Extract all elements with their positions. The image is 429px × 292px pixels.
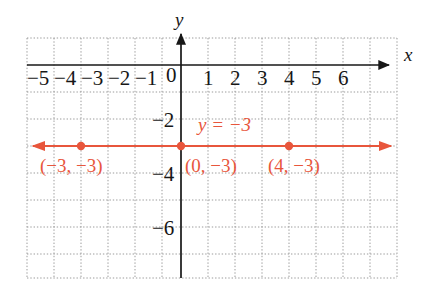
equation-label: y = −3 (196, 114, 251, 135)
y-tick-label--2: −2 (152, 108, 174, 132)
point-label--3--3: (−3, −3) (40, 155, 103, 177)
point-marker--3--3 (77, 142, 85, 150)
point-label-0--3: (0, −3) (185, 155, 237, 177)
x-tick-label--1: −1 (135, 66, 157, 90)
x-tick-label--3: −3 (81, 66, 103, 90)
x-tick-label-2: 2 (230, 66, 241, 90)
x-axis-label: x (403, 44, 413, 65)
x-tick-label--2: −2 (108, 66, 130, 90)
graph-canvas: x y −5 −4 −3 −2 −1 0 1 2 3 4 5 6 −2 −4 −… (0, 0, 429, 292)
point-marker-0--3 (177, 142, 185, 150)
x-tick-label--5: −5 (27, 66, 49, 90)
coordinate-graph-figure: x y −5 −4 −3 −2 −1 0 1 2 3 4 5 6 −2 −4 −… (0, 0, 429, 292)
y-tick-label--6: −6 (152, 216, 174, 240)
x-tick-label-4: 4 (284, 66, 295, 90)
point-label-4--3: (4, −3) (268, 155, 320, 177)
x-tick-label-6: 6 (338, 66, 349, 90)
x-tick-label--4: −4 (54, 66, 77, 90)
x-tick-label-3: 3 (257, 66, 268, 90)
point-marker-4--3 (285, 142, 293, 150)
y-axis-label: y (173, 9, 184, 30)
origin-label: 0 (166, 63, 177, 87)
y-tick-label--4: −4 (152, 162, 175, 186)
x-tick-label-5: 5 (311, 66, 322, 90)
x-tick-label-1: 1 (203, 66, 214, 90)
